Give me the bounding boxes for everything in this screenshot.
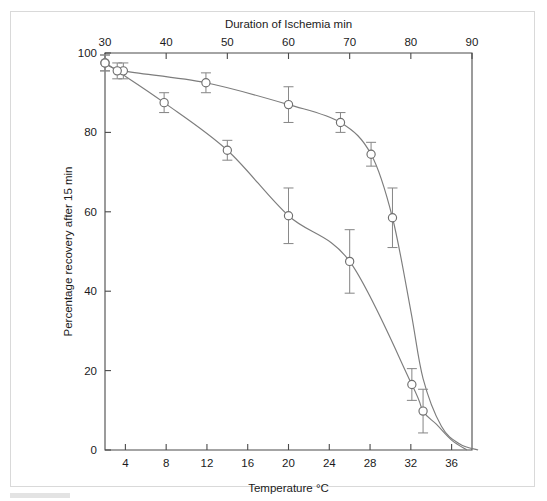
data-point-marker [408, 380, 416, 388]
top-tick-label: 90 [466, 36, 479, 48]
y-tick-label: 20 [84, 365, 97, 377]
series-curve [105, 63, 478, 450]
data-point-marker [367, 150, 375, 158]
data-curves [105, 63, 478, 450]
top-tick-label: 30 [99, 36, 112, 48]
top-tick-label: 60 [282, 36, 295, 48]
top-axis: 30405060708090 [99, 36, 479, 59]
bottom-tick-label: 12 [201, 457, 214, 469]
series-curve [105, 63, 467, 450]
bottom-tick-label: 8 [163, 457, 169, 469]
y-tick-label: 80 [84, 126, 97, 138]
y-tick-label: 60 [84, 206, 97, 218]
y-tick-label: 0 [91, 444, 97, 456]
left-axis: 020406080100 [78, 47, 111, 456]
x-axis-title: Temperature °C [248, 482, 329, 494]
data-markers [101, 59, 427, 415]
chart-canvas: 30405060708090 4812162024283236 02040608… [0, 0, 547, 501]
data-point-marker [113, 67, 121, 75]
bottom-tick-label: 24 [323, 457, 336, 469]
data-point-marker [202, 79, 210, 87]
data-point-marker [160, 99, 168, 107]
data-point-marker [346, 257, 354, 265]
bottom-axis: 4812162024283236 [122, 444, 458, 469]
data-point-marker [101, 59, 109, 67]
bottom-tick-label: 20 [282, 457, 295, 469]
top-tick-label: 70 [343, 36, 356, 48]
data-point-marker [388, 214, 396, 222]
top-tick-label: 50 [221, 36, 234, 48]
data-point-marker [284, 212, 292, 220]
error-bars [100, 55, 428, 433]
bottom-tick-label: 28 [364, 457, 377, 469]
top-tick-label: 40 [160, 36, 173, 48]
y-tick-label: 40 [84, 285, 97, 297]
top-axis-title: Duration of Ischemia min [225, 18, 352, 30]
data-point-marker [284, 101, 292, 109]
bottom-tick-label: 36 [445, 457, 458, 469]
bottom-tick-label: 16 [241, 457, 254, 469]
data-point-marker [336, 118, 344, 126]
y-tick-label: 100 [78, 47, 97, 59]
data-point-marker [223, 146, 231, 154]
data-point-marker [419, 407, 427, 415]
y-axis-title: Percentage recovery after 15 min [62, 166, 74, 336]
bottom-tick-label: 4 [122, 457, 129, 469]
top-tick-label: 80 [404, 36, 417, 48]
bottom-tick-label: 32 [404, 457, 417, 469]
